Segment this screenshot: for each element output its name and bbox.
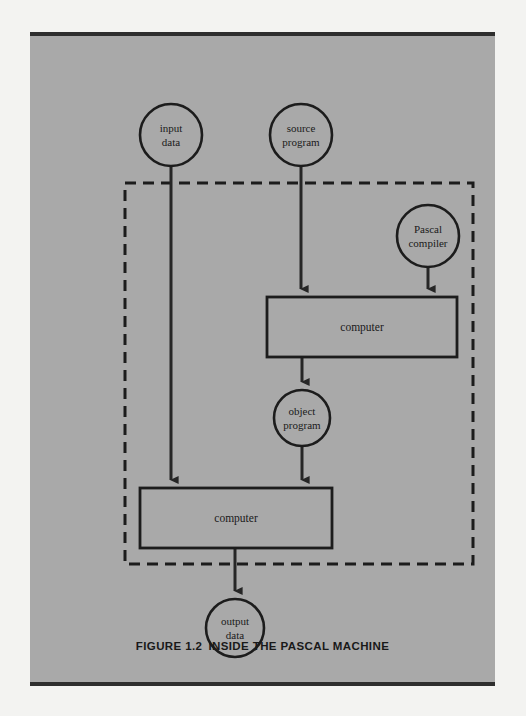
output-data-label-line1: output xyxy=(221,615,249,627)
figure-caption-number: FIGURE 1.2 xyxy=(136,640,203,652)
page-background: input data source program Pascal compile… xyxy=(0,0,526,716)
input-data-label-line1: input xyxy=(160,122,183,134)
pascal-compiler-label-line1: Pascal xyxy=(414,223,442,235)
object-program-label-line2: program xyxy=(283,419,321,431)
object-program-label-line1: object xyxy=(289,405,316,417)
computer-lower-label: computer xyxy=(214,512,258,525)
pascal-compiler-label-line2: compiler xyxy=(408,237,447,249)
node-source-program: source program xyxy=(270,104,332,166)
node-input-data: input data xyxy=(140,104,202,166)
source-program-label-line1: source xyxy=(287,122,316,134)
figure-panel: input data source program Pascal compile… xyxy=(30,32,495,686)
node-computer-lower: computer xyxy=(140,488,332,548)
source-program-label-line2: program xyxy=(282,136,320,148)
pascal-machine-diagram: input data source program Pascal compile… xyxy=(30,36,495,690)
output-data-label-line2: data xyxy=(226,629,244,641)
node-computer-upper: computer xyxy=(267,297,457,357)
figure-caption-title: INSIDE THE PASCAL MACHINE xyxy=(208,640,389,652)
computer-upper-label: computer xyxy=(340,321,384,334)
input-data-label-line2: data xyxy=(162,136,180,148)
node-object-program: object program xyxy=(274,390,330,446)
figure-caption: FIGURE 1.2INSIDE THE PASCAL MACHINE xyxy=(30,640,495,652)
node-pascal-compiler: Pascal compiler xyxy=(397,205,459,267)
